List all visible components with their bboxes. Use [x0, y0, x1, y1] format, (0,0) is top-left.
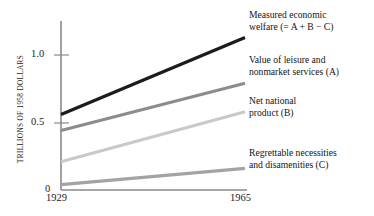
series-label-net-national-product: Net national product (B)	[249, 95, 296, 119]
series-label-measured-economic-welfare: Measured economic welfare (= A + B − C)	[249, 9, 333, 33]
x-axis-tick-label-1929: 1929	[46, 192, 67, 203]
series-label-leisure-line2: nonmarket services (A)	[249, 66, 339, 78]
y-axis-tick-label-1.0: 1.0	[31, 48, 44, 59]
series-label-value-of-leisure: Value of leisure and nonmarket services …	[249, 54, 339, 78]
series-label-leisure-line1: Value of leisure and	[249, 54, 325, 65]
series-label-regret-line2: and disamenities (C)	[249, 159, 337, 171]
series-label-regret-line1: Regrettable necessities	[249, 147, 337, 158]
series-label-mew-line2: welfare (= A + B − C)	[249, 21, 333, 33]
series-label-regrettable-necessities: Regrettable necessities and disamenities…	[249, 147, 337, 171]
series-label-nnp-line2: product (B)	[249, 107, 296, 119]
chart-container: TRILLIONS OF 1958 DOLLARS 1.0 0.5 0 1929…	[0, 0, 374, 216]
series-line-measured-economic-welfare	[61, 38, 245, 115]
y-axis-tick-label-0.5: 0.5	[31, 116, 44, 127]
y-axis-title: TRILLIONS OF 1958 DOLLARS	[17, 49, 25, 169]
series-label-mew-line1: Measured economic	[249, 9, 327, 20]
series-line-net-national-product	[61, 112, 245, 162]
series-label-nnp-line1: Net national	[249, 95, 296, 106]
x-axis-tick-label-1965: 1965	[230, 192, 251, 203]
series-line-regrettable-necessities	[61, 168, 245, 184]
series-line-value-of-leisure	[61, 83, 245, 130]
